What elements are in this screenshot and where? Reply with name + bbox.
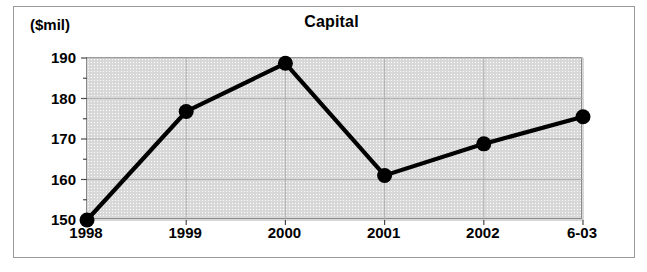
chart-title-text: Capital: [304, 13, 359, 30]
x-tick-label-6-03: 6-03: [567, 224, 597, 241]
x-tick-label-2002: 2002: [466, 224, 499, 241]
x-tick-label-2001: 2001: [367, 224, 400, 241]
y-tick-label-170: 170: [51, 130, 76, 147]
series-layer: [87, 58, 583, 220]
x-tick-label-1999: 1999: [169, 224, 202, 241]
y-axis-labels: 190180170160150: [28, 57, 76, 219]
y-tick-label-190: 190: [51, 49, 76, 66]
series-line-capital: [87, 63, 583, 220]
x-tick-label-1998: 1998: [69, 224, 102, 241]
data-point-2000: [278, 56, 293, 71]
plot-area: [86, 57, 582, 219]
data-point-6-03: [576, 109, 591, 124]
chart-title: Capital: [0, 13, 647, 31]
y-tick-label-160: 160: [51, 170, 76, 187]
data-point-2002: [476, 136, 491, 151]
x-tick-label-2000: 2000: [268, 224, 301, 241]
chart-figure: ($mil) Capital 190180170160150 199819992…: [0, 0, 647, 272]
x-axis-labels: 199819992000200120026-03: [86, 224, 582, 246]
data-point-2001: [377, 168, 392, 183]
y-tick-label-180: 180: [51, 89, 76, 106]
data-point-1999: [179, 104, 194, 119]
